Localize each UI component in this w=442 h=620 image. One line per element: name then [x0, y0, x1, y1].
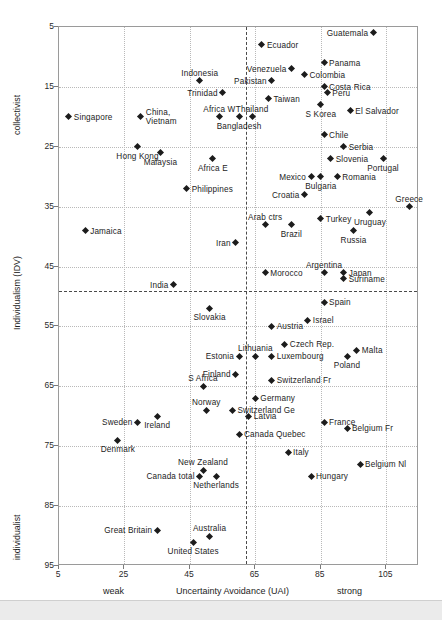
data-point[interactable]	[281, 341, 288, 348]
gridline-vertical	[190, 27, 191, 564]
data-point-label: Philippines	[192, 184, 233, 193]
y-axis-tick-mark	[54, 325, 58, 326]
y-axis-tick-mark	[54, 26, 58, 27]
data-point[interactable]	[232, 239, 239, 246]
data-point-label: Singapore	[74, 112, 113, 121]
data-point[interactable]	[199, 467, 206, 474]
data-point[interactable]	[154, 527, 161, 534]
data-point[interactable]	[265, 95, 272, 102]
data-point[interactable]	[353, 347, 360, 354]
data-point[interactable]	[317, 173, 324, 180]
data-point-label: Great Britain	[104, 526, 152, 535]
data-point-label: Belgium Nl	[365, 460, 406, 469]
data-point-label: Peru	[332, 88, 350, 97]
data-point[interactable]	[343, 353, 350, 360]
data-point[interactable]	[209, 155, 216, 162]
x-axis-tick-mark	[320, 565, 321, 569]
data-point-label: Malta	[362, 346, 383, 355]
data-point[interactable]	[235, 353, 242, 360]
data-point[interactable]	[301, 71, 308, 78]
data-point[interactable]	[134, 419, 141, 426]
data-point[interactable]	[196, 77, 203, 84]
data-point[interactable]	[301, 191, 308, 198]
data-point-label: Latvia	[254, 412, 277, 421]
data-point[interactable]	[268, 77, 275, 84]
data-point[interactable]	[232, 371, 239, 378]
data-point[interactable]	[304, 317, 311, 324]
data-point[interactable]	[114, 437, 121, 444]
data-point[interactable]	[370, 29, 377, 36]
data-point[interactable]	[262, 269, 269, 276]
data-point[interactable]	[199, 383, 206, 390]
y-axis-tick-label: 85	[45, 500, 54, 510]
data-point-label: Ireland	[144, 421, 170, 430]
x-axis-tick-label: 105	[378, 569, 392, 579]
x-axis-tick-label: 85	[315, 569, 324, 579]
data-point[interactable]	[340, 275, 347, 282]
data-point[interactable]	[262, 221, 269, 228]
data-point[interactable]	[258, 41, 265, 48]
data-point-label: Austria	[277, 322, 304, 331]
data-point-label: Bangladesh	[217, 121, 262, 130]
data-point[interactable]	[307, 173, 314, 180]
data-point[interactable]	[235, 431, 242, 438]
y-axis-high-label: individualist	[12, 515, 22, 560]
data-point[interactable]	[213, 473, 220, 480]
data-point[interactable]	[288, 221, 295, 228]
data-point[interactable]	[334, 173, 341, 180]
data-point[interactable]	[252, 353, 259, 360]
data-point[interactable]	[268, 323, 275, 330]
x-axis-tick-mark	[385, 565, 386, 569]
data-point-label: Norway	[192, 398, 221, 407]
data-point[interactable]	[340, 143, 347, 150]
data-point[interactable]	[350, 227, 357, 234]
data-point[interactable]	[324, 89, 331, 96]
data-point[interactable]	[268, 377, 275, 384]
data-point[interactable]	[307, 473, 314, 480]
data-point[interactable]	[154, 413, 161, 420]
data-point[interactable]	[268, 353, 275, 360]
x-axis-tick-mark	[123, 565, 124, 569]
data-point-label: Slovakia	[193, 313, 225, 322]
data-point[interactable]	[137, 113, 144, 120]
data-point[interactable]	[406, 203, 413, 210]
data-point[interactable]	[235, 113, 242, 120]
data-point-label: Switzerland Fr	[277, 376, 331, 385]
x-axis-tick-label: 25	[119, 569, 128, 579]
data-point[interactable]	[317, 215, 324, 222]
data-point[interactable]	[317, 101, 324, 108]
data-point-label: Panama	[329, 58, 360, 67]
data-point[interactable]	[219, 89, 226, 96]
gridline-horizontal	[59, 386, 417, 387]
y-axis-title: Individualism (IDV)	[12, 256, 22, 330]
data-point-label: New Zealand	[178, 458, 228, 467]
data-point[interactable]	[203, 407, 210, 414]
data-point-label: Africa W	[203, 104, 235, 113]
data-point[interactable]	[285, 449, 292, 456]
gridline-vertical	[124, 27, 125, 564]
data-point-label: Thailand	[236, 104, 269, 113]
data-point[interactable]	[82, 227, 89, 234]
data-point-label: Malaysia	[144, 157, 178, 166]
data-point-label: S Korea	[305, 109, 336, 118]
data-point[interactable]	[347, 107, 354, 114]
mean-line-horizontal	[59, 291, 417, 292]
y-axis-tick-label: 35	[45, 201, 54, 211]
data-point[interactable]	[288, 65, 295, 72]
data-point[interactable]	[252, 395, 259, 402]
x-axis-tick-mark	[189, 565, 190, 569]
data-point[interactable]	[216, 113, 223, 120]
data-point[interactable]	[65, 113, 72, 120]
data-point[interactable]	[134, 143, 141, 150]
y-axis-tick-mark	[54, 266, 58, 267]
data-point-label: Mexico	[279, 172, 306, 181]
data-point[interactable]	[206, 305, 213, 312]
data-point[interactable]	[206, 533, 213, 540]
data-point[interactable]	[357, 461, 364, 468]
data-point-label: Uruguay	[354, 217, 386, 226]
data-point[interactable]	[366, 209, 373, 216]
y-axis-tick-mark	[54, 385, 58, 386]
data-point[interactable]	[229, 407, 236, 414]
data-point[interactable]	[327, 155, 334, 162]
data-point[interactable]	[170, 281, 177, 288]
